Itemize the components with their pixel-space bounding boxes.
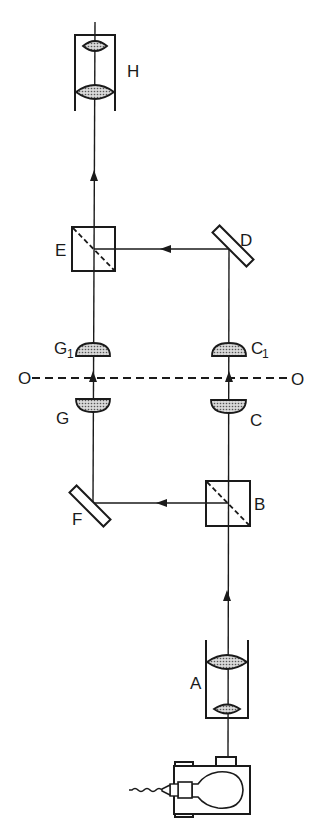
lens-c1: C 1 (212, 339, 269, 361)
lamp-plug (162, 785, 170, 795)
arrow-up-icon (223, 590, 231, 601)
lamp-socket-base (170, 784, 178, 796)
label-h: H (127, 62, 139, 81)
light-rays (93, 22, 229, 757)
label-c: C (250, 411, 262, 430)
lens-g-shape (76, 399, 110, 412)
power-cord (129, 789, 162, 792)
arrow-up-icon (225, 371, 233, 382)
label-o-left: O (18, 369, 31, 388)
label-g1-sub: 1 (67, 347, 74, 361)
condenser-large-lens (207, 655, 247, 669)
arrow-left-icon (160, 245, 171, 253)
label-d: D (240, 231, 252, 250)
lamp-socket (178, 782, 192, 798)
eyepiece-eye-lens (83, 41, 107, 51)
mirror-d: D (212, 225, 253, 266)
condenser-small-lens (214, 705, 240, 714)
arrow-up-icon (90, 170, 98, 181)
optical-diagram: O O H E D G 1 C 1 G C F (0, 0, 315, 837)
arrows (89, 170, 233, 601)
arrow-up-icon (89, 371, 97, 382)
lamp-top-nub (216, 757, 236, 766)
eyepiece-h: H (75, 35, 139, 111)
label-e: E (55, 241, 66, 260)
label-g1-main: G (54, 339, 67, 358)
arrow-left-icon (156, 499, 167, 507)
label-f: F (72, 510, 82, 529)
label-a: A (190, 674, 202, 693)
lens-g1-shape (76, 343, 110, 356)
label-b: B (254, 495, 265, 514)
label-g: G (56, 409, 69, 428)
ray-lamp-to-d (228, 249, 229, 757)
lens-c-shape (211, 400, 246, 413)
eyepiece-field-lens (76, 85, 114, 99)
label-c1-sub: 1 (262, 347, 269, 361)
lens-g1: G 1 (54, 339, 110, 361)
lens-g: G (56, 399, 110, 428)
lens-c1-shape (212, 343, 246, 356)
label-o-right: O (291, 370, 304, 389)
condenser-a: A (190, 640, 248, 718)
lamp-housing (129, 757, 250, 817)
mirror-f: F (69, 485, 110, 529)
object-plane: O O (18, 369, 304, 389)
lens-c: C (211, 400, 262, 430)
